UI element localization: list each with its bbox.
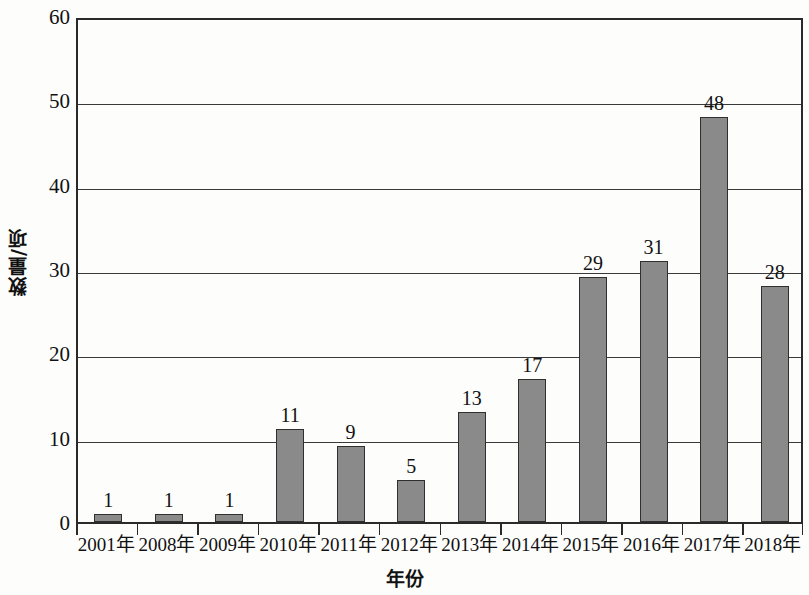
bar-value-label: 9 (346, 422, 356, 442)
bar[interactable] (397, 480, 425, 522)
bar-slot: 1 (199, 20, 260, 522)
bar-value-label: 31 (644, 237, 664, 257)
bar-slot: 29 (563, 20, 624, 522)
y-axis-tick-label: 10 (30, 429, 70, 450)
plot-area: 1111195131729314828 (76, 18, 803, 524)
bar[interactable] (518, 379, 546, 522)
x-axis-title: 年份 (0, 564, 809, 591)
y-axis-tick-labels: 0102030405060 (26, 0, 70, 595)
x-axis-tick-label: 2011年 (320, 534, 376, 556)
y-axis-tick-label: 20 (30, 344, 70, 365)
x-axis-tick-labels: 2001年2008年2009年2010年2011年2012年2013年2014年… (0, 534, 809, 564)
bar-slot: 1 (78, 20, 139, 522)
bars-layer: 1111195131729314828 (78, 20, 801, 522)
bar[interactable] (94, 514, 122, 522)
bar-value-label: 1 (103, 490, 113, 510)
bar-slot: 11 (260, 20, 321, 522)
x-axis-title-text: 年份 (386, 568, 424, 590)
bar-slot: 1 (139, 20, 200, 522)
x-axis-tick-label: 2015年 (562, 534, 619, 556)
bar[interactable] (337, 446, 365, 522)
bar[interactable] (640, 261, 668, 522)
bar[interactable] (458, 412, 486, 522)
bar-slot: 48 (684, 20, 745, 522)
y-axis-tick-label: 60 (30, 7, 70, 28)
x-axis-tick-label: 2001年 (78, 534, 135, 556)
bar-value-label: 5 (406, 456, 416, 476)
bar[interactable] (579, 277, 607, 522)
x-axis-tick-label: 2014年 (502, 534, 559, 556)
x-axis-tick-label: 2012年 (381, 534, 438, 556)
bar[interactable] (155, 514, 183, 522)
x-axis-tick-label: 2008年 (138, 534, 195, 556)
bar-value-label: 17 (522, 355, 542, 375)
bar-chart: 数量/项 0102030405060 1111195131729314828 2… (0, 0, 809, 595)
y-axis-tick-label: 40 (30, 176, 70, 197)
bar-slot: 31 (623, 20, 684, 522)
bar-slot: 17 (502, 20, 563, 522)
bar-value-label: 48 (704, 93, 724, 113)
bar-value-label: 11 (280, 405, 299, 425)
bar-value-label: 1 (164, 490, 174, 510)
bar[interactable] (761, 286, 789, 522)
bar[interactable] (700, 117, 728, 522)
bar[interactable] (215, 514, 243, 522)
bar-value-label: 13 (462, 388, 482, 408)
y-axis-tick-label: 50 (30, 91, 70, 112)
x-axis-tick-label: 2010年 (260, 534, 317, 556)
x-axis-tick-label: 2018年 (744, 534, 801, 556)
bar[interactable] (276, 429, 304, 522)
bar-slot: 9 (320, 20, 381, 522)
bar-value-label: 28 (765, 262, 785, 282)
x-axis-tick-label: 2017年 (684, 534, 741, 556)
y-axis-tick-label: 0 (30, 513, 70, 534)
bar-value-label: 1 (224, 490, 234, 510)
y-axis-tick-label: 30 (30, 260, 70, 281)
x-axis-tick-label: 2016年 (623, 534, 680, 556)
bar-value-label: 29 (583, 253, 603, 273)
x-axis-tick-label: 2013年 (441, 534, 498, 556)
x-axis-tick-label: 2009年 (199, 534, 256, 556)
bar-slot: 5 (381, 20, 442, 522)
bar-slot: 28 (744, 20, 805, 522)
bar-slot: 13 (442, 20, 503, 522)
